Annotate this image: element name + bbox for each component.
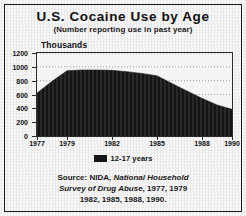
x-tick-label: 1985 — [149, 140, 165, 147]
source-note: Source: NIDA, National HouseholdSurvey o… — [0, 172, 246, 205]
x-tick-label: 1982 — [104, 140, 120, 147]
legend-swatch — [94, 155, 107, 162]
x-tick-mark — [112, 137, 113, 140]
legend: 12-17 years — [0, 154, 246, 163]
y-axis-tick-labels: 020040060080010001200 — [0, 52, 33, 137]
y-tick-label: 1000 — [12, 63, 28, 70]
x-tick-mark — [202, 137, 203, 140]
x-tick-label: 1988 — [194, 140, 210, 147]
chart-figure: U.S. Cocaine Use by Age (Number reportin… — [0, 0, 246, 216]
y-tick-mark — [32, 67, 36, 68]
source-line: Source: NIDA, National Household — [0, 172, 246, 183]
y-tick-mark — [32, 136, 36, 137]
x-tick-mark — [67, 137, 68, 140]
chart-subtitle: (Number reporting use in past year) — [0, 24, 246, 35]
x-tick-mark — [232, 137, 233, 140]
y-tick-mark — [32, 122, 36, 123]
source-line: Survey of Drug Abuse, 1977, 1979 — [0, 183, 246, 194]
x-tick-mark — [37, 137, 38, 140]
y-tick-label: 200 — [16, 119, 28, 126]
x-tick-label: 1977 — [29, 140, 45, 147]
y-tick-label: 1200 — [12, 50, 28, 57]
y-axis-units-label: Thousands — [41, 40, 87, 50]
y-tick-label: 0 — [24, 133, 28, 140]
y-tick-label: 400 — [16, 105, 28, 112]
x-tick-mark — [157, 137, 158, 140]
y-tick-mark — [32, 53, 36, 54]
title-block: U.S. Cocaine Use by Age (Number reportin… — [0, 9, 246, 35]
y-tick-mark — [32, 81, 36, 82]
source-line: 1982, 1985, 1988, 1990. — [0, 194, 246, 205]
y-tick-mark — [32, 108, 36, 109]
x-tick-label: 1979 — [59, 140, 75, 147]
y-tick-label: 600 — [16, 91, 28, 98]
legend-label: 12-17 years — [111, 154, 153, 163]
x-tick-label: 1990 — [224, 140, 240, 147]
y-tick-mark — [32, 95, 36, 96]
chart-title: U.S. Cocaine Use by Age — [0, 9, 246, 24]
x-axis-tick-labels: 197719791982198519881990 — [0, 140, 246, 152]
area-series-svg — [37, 53, 232, 136]
area-series-12-17-years — [37, 70, 232, 136]
plot-area — [36, 52, 233, 137]
y-tick-label: 800 — [16, 77, 28, 84]
